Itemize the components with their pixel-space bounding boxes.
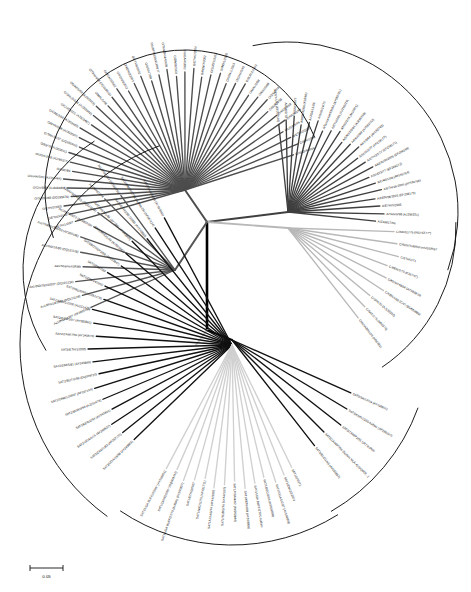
taxon-label: O/UGA/4/2002 bbox=[183, 50, 187, 71]
taxon-label: SAT2/ETH/1/2005 bbox=[61, 347, 86, 352]
scale-bar-label: 0.05 bbox=[42, 574, 51, 579]
tree-canvas: O/ETH/1/2007O/ETH/3/2003O/ETH/2/2005O/SU… bbox=[0, 0, 471, 592]
taxon-label: A/IGR/2/73 bbox=[284, 102, 288, 118]
taxon-label: O/CIV/8/99 (AJ303486) bbox=[33, 186, 65, 191]
taxon-label: SAT1/RSA/4/92 (AY593844) bbox=[232, 483, 237, 522]
phylogenetic-tree-figure: O/ETH/1/2007O/ETH/3/2003O/ETH/2/2005O/SU… bbox=[0, 0, 471, 592]
taxon-label: A/TAN/6/98 (AJ296321) bbox=[386, 212, 419, 217]
